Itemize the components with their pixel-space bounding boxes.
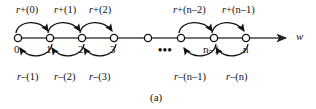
backward-rate-arg-1: –(1): [21, 71, 39, 82]
axis-variable-label: w: [296, 31, 303, 42]
backward-rate-arg-n: –(n): [230, 71, 248, 82]
state-label-1: 1: [46, 44, 52, 55]
state-label-n-minus-1: n–1: [203, 44, 220, 55]
state-label-2: 2: [78, 44, 84, 55]
forward-rate-label-n-minus-2: r+(n–2): [173, 5, 206, 16]
backward-rate-label-n-minus-1: r–(n–1): [174, 72, 206, 83]
forward-rate-label-2: r+(2): [89, 5, 111, 16]
forward-rate-arg-n-minus-2: +(n–2): [177, 4, 206, 15]
state-label-0: 0: [14, 44, 20, 55]
backward-rate-label-3: r–(3): [89, 72, 111, 83]
forward-arc-2-to-3: [80, 23, 112, 33]
forward-arc-1-to-2: [48, 23, 80, 33]
state-label-n: n: [243, 44, 249, 55]
state-label-3: 3: [110, 44, 116, 55]
forward-rate-arg-2: +(2): [93, 4, 111, 15]
backward-rate-arg-2: –(2): [58, 71, 76, 82]
figure-caption: (a): [150, 92, 162, 103]
forward-rate-arg-n-minus-1: +(n–1): [226, 4, 255, 15]
state-node-intermediate[interactable]: [144, 34, 151, 41]
forward-arc-nm1-to-n: [212, 23, 244, 33]
forward-rate-label-1: r+(1): [54, 5, 76, 16]
backward-rate-label-2: r–(2): [54, 72, 76, 83]
state-node-n-minus-1[interactable]: [210, 34, 217, 41]
state-node-0[interactable]: [14, 34, 21, 41]
forward-rate-arg-0: +(0): [20, 4, 38, 15]
state-node-n-minus-2[interactable]: [177, 34, 184, 41]
backward-rate-arg-n-minus-1: –(n–1): [178, 71, 206, 82]
state-node-3[interactable]: [110, 34, 117, 41]
backward-rate-label-1: r–(1): [17, 72, 39, 83]
forward-arc-nm2-to-nm1: [179, 23, 212, 33]
figure-birth-death-chain: r+(0) r+(1) r+(2) r+(n–2) r+(n–1) 0 1 2 …: [0, 0, 316, 109]
state-node-n[interactable]: [242, 34, 249, 41]
backward-rate-label-n: r–(n): [226, 72, 248, 83]
forward-rate-label-n-minus-1: r+(n–1): [222, 5, 255, 16]
forward-rate-label-0: r+(0): [16, 5, 38, 16]
forward-arc-0-to-1: [16, 23, 48, 33]
forward-rate-arg-1: +(1): [58, 4, 76, 15]
state-node-2[interactable]: [78, 34, 85, 41]
backward-rate-arg-3: –(3): [93, 71, 111, 82]
state-node-1[interactable]: [46, 34, 53, 41]
ellipsis-label: •••: [158, 44, 172, 56]
forward-arc-group: [16, 23, 244, 33]
